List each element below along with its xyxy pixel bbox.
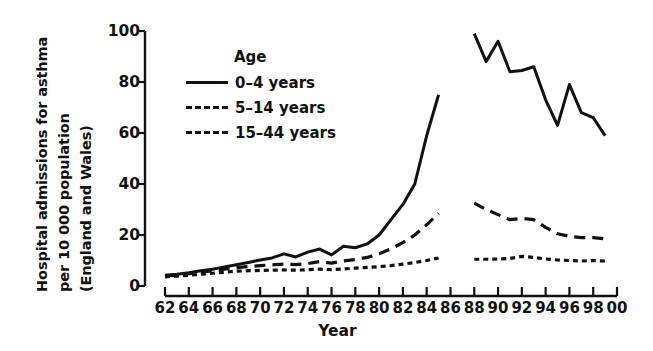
plot-area xyxy=(0,0,653,351)
series-line-0-4-years-seg0 xyxy=(165,95,439,276)
series-line-15-44-years-seg1 xyxy=(474,256,605,261)
series-line-15-44-years-seg0 xyxy=(165,258,439,277)
series-line-0-4-years-seg1 xyxy=(474,34,605,136)
series-line-5-14-years-seg1 xyxy=(474,203,605,239)
asthma-admissions-chart: Hospital admissions for asthma per 10 00… xyxy=(0,0,653,351)
series-line-5-14-years-seg0 xyxy=(165,213,439,275)
